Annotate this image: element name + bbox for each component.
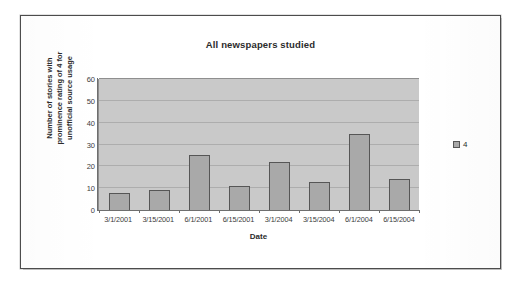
x-axis-tick-label: 3/15/2004 — [299, 215, 339, 224]
bar[interactable] — [309, 182, 330, 210]
bar[interactable] — [349, 134, 370, 210]
bar-slot — [259, 79, 299, 210]
x-axis-tick-label: 6/15/2001 — [218, 215, 258, 224]
chart-legend: 4 — [453, 140, 467, 149]
y-axis-tick-label: 0 — [73, 206, 95, 215]
legend-swatch-series-4 — [453, 141, 460, 148]
bar-series-group — [99, 79, 419, 210]
x-axis-tick-label: 3/15/2001 — [138, 215, 178, 224]
bar[interactable] — [269, 162, 290, 210]
legend-label-series-4: 4 — [463, 140, 467, 149]
scanned-page-frame: All newspapers studied Number of stories… — [20, 15, 501, 269]
bar[interactable] — [389, 179, 410, 210]
bar-slot — [179, 79, 219, 210]
y-axis-tick-label: 30 — [73, 141, 95, 150]
bar-slot — [99, 79, 139, 210]
bar[interactable] — [109, 193, 130, 210]
chart-title: All newspapers studied — [21, 39, 500, 50]
bar[interactable] — [189, 155, 210, 210]
x-axis-tick-label: 3/1/2004 — [259, 215, 299, 224]
x-axis-line — [98, 210, 419, 211]
y-axis-tick-label: 20 — [73, 162, 95, 171]
x-axis-tick-label: 6/15/2004 — [379, 215, 419, 224]
bar-slot — [139, 79, 179, 210]
plot-area — [98, 79, 419, 210]
bar-chart: All newspapers studied Number of stories… — [21, 16, 500, 268]
bar-slot — [299, 79, 339, 210]
y-axis-tick-label: 40 — [73, 119, 95, 128]
x-axis-title: Date — [98, 232, 419, 241]
y-axis-tick-label: 60 — [73, 75, 95, 84]
y-axis-tick-label: 10 — [73, 184, 95, 193]
x-axis-tick-label: 3/1/2001 — [98, 215, 138, 224]
bar[interactable] — [229, 186, 250, 210]
y-axis-tick-labels: 0102030405060 — [73, 74, 95, 215]
y-axis-title-line-2: prominence rating of 4 for — [55, 52, 65, 145]
y-axis-tick-label: 50 — [73, 97, 95, 106]
bar-slot — [219, 79, 259, 210]
x-axis-tick-labels: 3/1/20013/15/20016/1/20016/15/20013/1/20… — [98, 215, 419, 224]
y-axis-title-line-1: Number of stories with — [45, 57, 55, 138]
bar-slot — [379, 79, 419, 210]
bar-slot — [339, 79, 379, 210]
x-axis-tick-mark — [419, 210, 420, 213]
x-axis-tick-label: 6/1/2004 — [339, 215, 379, 224]
x-axis-tick-label: 6/1/2001 — [178, 215, 218, 224]
bar[interactable] — [149, 190, 170, 210]
